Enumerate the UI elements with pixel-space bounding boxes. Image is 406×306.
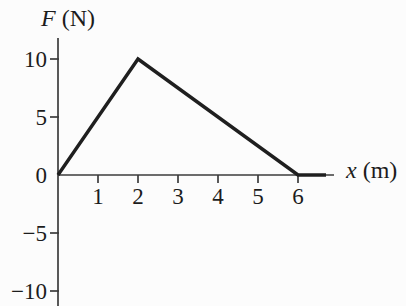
- x-tick-label-6: 6: [292, 184, 304, 209]
- y-tick-label-10: 10: [24, 47, 47, 72]
- chart-svg: 1050−5−10123456: [0, 0, 406, 306]
- y-axis-variable: F: [41, 5, 56, 31]
- x-tick-label-2: 2: [132, 184, 144, 209]
- x-axis-unit: (m): [363, 157, 398, 183]
- y-axis-unit: (N): [62, 5, 95, 31]
- x-tick-label-4: 4: [212, 184, 224, 209]
- y-tick-label-0: 0: [36, 163, 48, 188]
- y-axis-label: F (N): [41, 6, 95, 30]
- x-tick-label-3: 3: [172, 184, 184, 209]
- series-group: [58, 59, 326, 175]
- y-tick-label--5: −5: [23, 221, 47, 246]
- x-tick-label-5: 5: [252, 184, 264, 209]
- x-axis-label: x (m): [346, 158, 397, 182]
- y-tick-label-5: 5: [36, 105, 48, 130]
- x-axis-variable: x: [346, 157, 357, 183]
- y-tick-label--10: −10: [11, 279, 47, 304]
- force-position-chart: 1050−5−10123456 F (N) x (m): [0, 0, 406, 306]
- force-data-line: [58, 59, 326, 175]
- x-tick-label-1: 1: [92, 184, 104, 209]
